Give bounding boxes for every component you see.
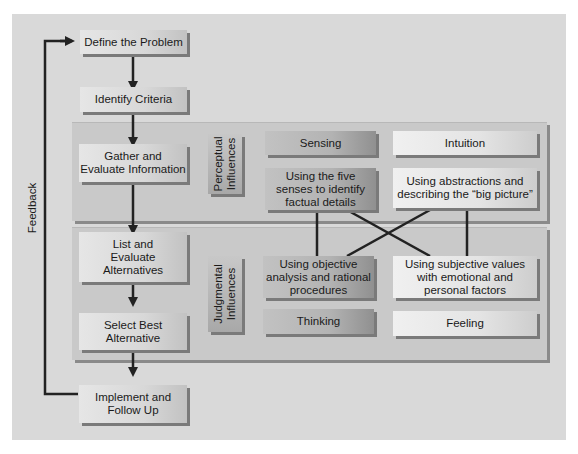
step-list-alternatives: List and Evaluate Alternatives [79, 232, 187, 282]
step-select-best: Select Best Alternative [79, 313, 187, 350]
step-gather-information: Gather and Evaluate Information [79, 144, 187, 182]
sensing-title: Sensing [265, 131, 376, 155]
step-label: Define the Problem [84, 36, 182, 49]
step-label: Identify Criteria [95, 93, 172, 106]
step-label: List and Evaluate Alternatives [103, 238, 163, 277]
step-identify-criteria: Identify Criteria [80, 87, 187, 112]
thinking-description: Using objective analysis and rational pr… [263, 256, 374, 298]
thinking-title: Thinking [263, 309, 374, 334]
feeling-title: Feeling [393, 311, 537, 336]
feedback-label: Feedback [26, 180, 38, 236]
step-label: Select Best Alternative [104, 319, 162, 345]
step-label: Gather and Evaluate Information [80, 150, 185, 176]
judgmental-influences-label: Judgmental Influences [208, 256, 242, 332]
sensing-description: Using the five senses to identify factua… [265, 168, 376, 210]
step-label: Implement and Follow Up [95, 391, 171, 417]
feeling-description: Using subjective values with emotional a… [393, 256, 537, 298]
intuition-title: Intuition [393, 131, 537, 155]
intuition-description: Using abstractions and describing the “b… [393, 168, 537, 208]
step-implement-follow-up: Implement and Follow Up [79, 385, 187, 423]
perceptual-influences-label: Perceptual Influences [208, 134, 242, 194]
step-define-problem: Define the Problem [80, 30, 187, 54]
